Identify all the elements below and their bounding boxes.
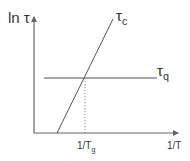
- tg-marker-label: 1/Tg: [77, 141, 95, 153]
- tau-c-label: τc: [116, 8, 127, 27]
- tau-c-line: [57, 19, 113, 133]
- x-axis-label-text: 1/T: [167, 140, 181, 151]
- x-axis-label: 1/T: [167, 141, 181, 151]
- tau-q-label-sub: q: [163, 70, 169, 82]
- y-axis-label-text: ln τ: [8, 9, 30, 26]
- tau-q-label: τq: [157, 63, 169, 82]
- tg-marker-label-sub: g: [91, 145, 95, 154]
- y-axis-label: ln τ: [8, 10, 30, 25]
- tg-marker-label-main: 1/T: [77, 140, 91, 151]
- tau-c-label-sub: c: [122, 15, 127, 27]
